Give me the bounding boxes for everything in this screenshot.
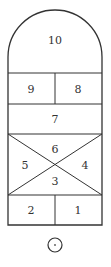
cell-5-label: 5 bbox=[22, 159, 29, 172]
cell-4-label: 4 bbox=[82, 159, 89, 172]
cell-2-label: 2 bbox=[28, 204, 35, 217]
hopscotch-diagram: 10 9 8 7 6 5 4 3 2 1 bbox=[0, 0, 111, 267]
start-marker-icon bbox=[48, 238, 62, 252]
cell-9-label: 9 bbox=[28, 83, 35, 96]
cell-3-label: 3 bbox=[52, 175, 59, 188]
cell-6-label: 6 bbox=[52, 143, 59, 156]
cell-8-label: 8 bbox=[75, 83, 82, 96]
cell-7-label: 7 bbox=[52, 113, 59, 126]
cell-10-label: 10 bbox=[48, 34, 62, 47]
cell-1-label: 1 bbox=[75, 204, 82, 217]
